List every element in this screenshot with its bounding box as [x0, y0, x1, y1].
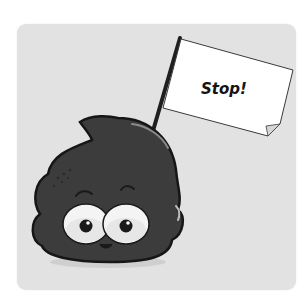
stop-flag: Stop! [163, 39, 293, 136]
poop-character [33, 116, 183, 262]
flag-text: Stop! [201, 80, 247, 98]
left-eye [63, 204, 109, 244]
flag-curl [266, 124, 280, 136]
poop-illustration: Stop! [0, 0, 307, 301]
right-eye [103, 204, 149, 244]
